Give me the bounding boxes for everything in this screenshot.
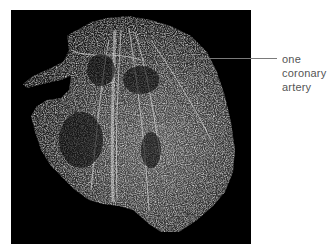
label-line-3: artery [282,80,326,94]
label-leader-line [200,58,277,59]
label-line-2: coronary [282,66,326,80]
label-line-1: one [282,52,326,66]
heart-vascular-cast-photo [11,10,251,244]
coronary-artery-label: one coronary artery [282,52,326,94]
heart-shape [11,10,251,244]
heart-cast-illustration [11,10,251,244]
